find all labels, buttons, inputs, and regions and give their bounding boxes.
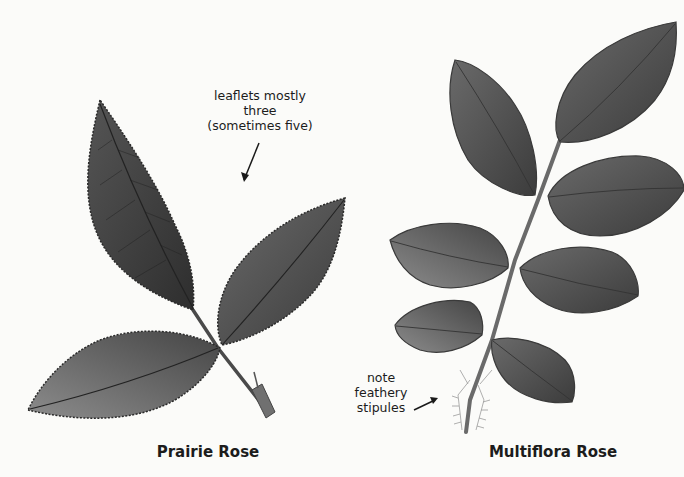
multiflora-rose-leaflet-3 [548,156,684,236]
leaflets-annotation-line2: (sometimes five) [196,118,324,133]
prairie-rose-caption: Prairie Rose [148,443,268,461]
leaflets-annotation: leaflets mostly three (sometimes five) [196,88,324,133]
multiflora-rose-leaflet-7 [492,338,575,402]
arrow-down-left-icon [241,143,259,182]
multiflora-rose-leaflet-2 [556,22,676,142]
stipules-annotation-line1: note [346,370,416,385]
arrow-up-right-icon [414,397,438,410]
botanical-plate [0,0,684,477]
stipules-annotation-line2: feathery [346,385,416,400]
multiflora-rose-caption: Multiflora Rose [478,443,628,461]
prairie-rose-left-leaflet [28,331,220,418]
multiflora-rose-specimen [390,22,684,432]
prairie-rose-specimen [28,100,345,418]
leaflets-annotation-line1: leaflets mostly three [196,88,324,118]
prairie-rose-stipule [252,384,275,418]
multiflora-rose-leaflet-6 [395,301,483,353]
stipules-annotation-line3: stipules [346,400,416,415]
stipules-annotation: note feathery stipules [346,370,416,415]
multiflora-rose-leaflet-5 [520,247,638,313]
prairie-rose-right-leaflet [218,198,345,345]
